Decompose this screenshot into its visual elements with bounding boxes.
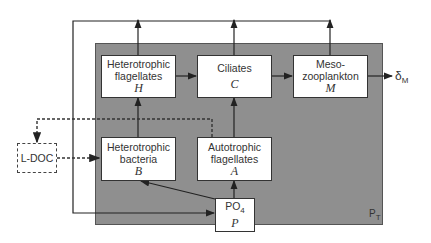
mesozooplankton-node: Meso- zooplankton M <box>293 55 368 98</box>
boundary-label: PT <box>369 208 381 222</box>
node-symbol: B <box>135 165 142 178</box>
ldoc-node: L-DOC <box>17 143 57 173</box>
node-symbol: H <box>134 82 143 95</box>
node-symbol: A <box>231 165 238 178</box>
node-label-line2: flagellates <box>211 153 258 165</box>
autotrophic-flagellates-node: Autotrophic flagellates A <box>197 137 272 181</box>
ciliates-node: Ciliates C <box>197 55 272 98</box>
phosphate-node: PO4 P <box>215 198 255 232</box>
node-label: PO4 <box>225 200 245 217</box>
node-label-line1: Autotrophic <box>208 141 261 153</box>
node-label-line2: bacteria <box>120 153 157 165</box>
food-web-diagram: Heterotrophic flagellates H Ciliates C M… <box>0 0 431 243</box>
node-label: L-DOC <box>21 152 54 164</box>
node-symbol: C <box>230 78 238 91</box>
heterotrophic-flagellates-node: Heterotrophic flagellates H <box>101 55 176 98</box>
node-symbol: P <box>231 217 238 230</box>
heterotrophic-bacteria-node: Heterotrophic bacteria B <box>101 137 176 181</box>
output-label: δM <box>395 69 408 85</box>
node-symbol: M <box>326 82 336 95</box>
node-label-line1: Ciliates <box>217 62 251 74</box>
node-label-line1: Heterotrophic <box>107 141 170 153</box>
node-label-line1: Meso- <box>316 58 345 70</box>
node-label-line1: Heterotrophic <box>107 58 170 70</box>
